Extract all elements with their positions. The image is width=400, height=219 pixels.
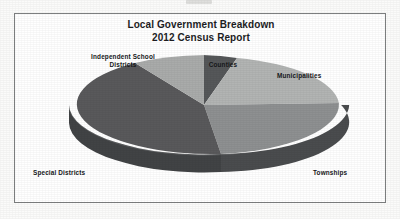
label-independent-school-districts: Independent School Districts: [75, 53, 171, 69]
scan-artifact-top: [186, 0, 212, 4]
label-municipalities: Municipalities: [277, 72, 363, 80]
label-special-districts: Special Districts: [33, 169, 123, 177]
chart-frame: Local Government Breakdown 2012 Census R…: [14, 13, 386, 203]
label-townships: Townships: [313, 169, 383, 177]
label-counties: Counties: [193, 61, 253, 69]
